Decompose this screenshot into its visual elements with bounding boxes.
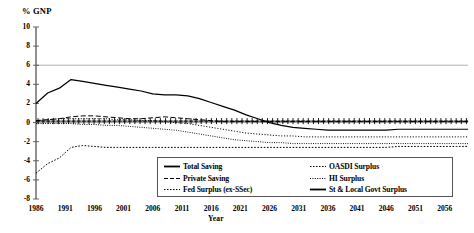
legend-item-label: Private Saving (183, 174, 229, 183)
legend-item[interactable]: Fed Surplus (ex-SSec) (164, 184, 252, 196)
series-marker (261, 118, 265, 124)
series-marker (347, 118, 351, 124)
legend-swatch-icon (164, 174, 180, 183)
series-marker (143, 118, 147, 124)
series-marker (327, 118, 331, 124)
series-marker (159, 118, 163, 124)
series-marker (87, 118, 91, 124)
series-marker (82, 118, 86, 124)
legend-swatch-icon (164, 185, 180, 194)
series-marker (113, 118, 117, 124)
legend-item[interactable]: HI Surplus (310, 173, 407, 185)
plot-area (0, 0, 474, 233)
series-marker (388, 118, 392, 124)
series-marker (148, 118, 152, 124)
series-marker (368, 118, 372, 124)
series-marker (220, 118, 224, 124)
series-marker (154, 118, 158, 124)
chart-container: % GNP Year 1086420-2-4-6-8 1986199119962… (0, 0, 474, 233)
series-marker (205, 118, 209, 124)
series-marker (215, 118, 219, 124)
series-marker (77, 118, 81, 124)
series-marker (123, 118, 127, 124)
legend-item-label: Total Saving (183, 162, 222, 171)
series-marker (465, 118, 469, 124)
series-marker (373, 118, 377, 124)
series-marker (240, 118, 244, 124)
series-marker (398, 118, 402, 124)
series-marker (245, 118, 249, 124)
series-marker (169, 118, 173, 124)
legend-marker-icon (310, 185, 326, 194)
series-marker (291, 118, 295, 124)
legend-column-right: OASDI SurplusHI SurplusSt & Local Govt S… (310, 161, 407, 196)
legend-swatch-icon (310, 185, 326, 194)
legend-item-label: OASDI Surplus (329, 162, 379, 171)
series-marker (312, 118, 316, 124)
series-marker (103, 118, 107, 124)
series-marker (230, 118, 234, 124)
series-marker (363, 118, 367, 124)
series-marker (449, 118, 453, 124)
series-marker (225, 118, 229, 124)
legend-marker-icon (164, 174, 180, 183)
legend-column-left: Total SavingPrivate SavingFed Surplus (e… (164, 161, 252, 196)
series-marker (46, 118, 50, 124)
legend-marker-icon (310, 162, 326, 171)
series-marker (434, 118, 438, 124)
series-marker (250, 118, 254, 124)
legend-item-label: Fed Surplus (ex-SSec) (183, 185, 252, 194)
legend-swatch-icon (310, 174, 326, 183)
series-marker (199, 118, 203, 124)
legend: Total SavingPrivate SavingFed Surplus (e… (157, 157, 453, 197)
series-marker (210, 118, 214, 124)
legend-swatch-icon (310, 162, 326, 171)
legend-marker-icon (164, 162, 180, 171)
series-marker (454, 118, 458, 124)
legend-item[interactable]: Private Saving (164, 173, 252, 185)
series-marker (322, 118, 326, 124)
series-marker (409, 118, 413, 124)
series-marker (342, 118, 346, 124)
series-marker (352, 118, 356, 124)
series-marker (439, 118, 443, 124)
series-marker (358, 118, 362, 124)
series-marker (419, 118, 423, 124)
series-marker (296, 118, 300, 124)
series-marker (174, 118, 178, 124)
legend-item-label: St & Local Govt Surplus (329, 185, 407, 194)
series-line-4 (36, 124, 468, 144)
legend-item[interactable]: Total Saving (164, 161, 252, 173)
series-marker (301, 118, 305, 124)
legend-item[interactable]: St & Local Govt Surplus (310, 184, 407, 196)
legend-marker-icon (164, 185, 180, 194)
series-marker (337, 118, 341, 124)
series-marker (460, 118, 464, 124)
legend-item-label: HI Surplus (329, 174, 364, 183)
series-marker (164, 118, 168, 124)
series-marker (266, 118, 270, 124)
series-marker (108, 118, 112, 124)
series-marker (424, 118, 428, 124)
series-marker (383, 118, 387, 124)
series-marker (41, 118, 45, 124)
series-marker (307, 118, 311, 124)
legend-marker-icon (310, 174, 326, 183)
series-marker (281, 118, 285, 124)
series-marker (332, 118, 336, 124)
series-marker (414, 118, 418, 124)
series-marker (378, 118, 382, 124)
series-marker (317, 118, 321, 124)
series-marker (235, 118, 239, 124)
legend-swatch-icon (164, 162, 180, 171)
series-marker (444, 118, 448, 124)
legend-item[interactable]: OASDI Surplus (310, 161, 407, 173)
series-marker (118, 118, 122, 124)
series-marker (286, 118, 290, 124)
series-marker (393, 118, 397, 124)
series-marker (403, 118, 407, 124)
series-marker (276, 118, 280, 124)
series-marker (429, 118, 433, 124)
